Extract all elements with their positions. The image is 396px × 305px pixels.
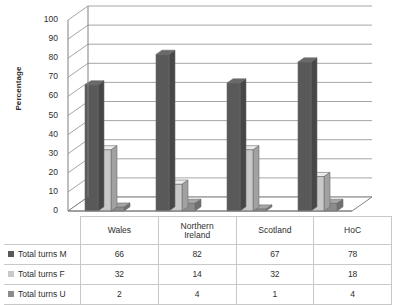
plot-svg <box>0 0 396 216</box>
table-cell: 32 <box>81 265 159 285</box>
data-table: WalesNorthernIrelandScotlandHoCTotal tur… <box>4 216 392 305</box>
table-cell: 78 <box>314 245 392 265</box>
bars <box>85 50 343 211</box>
table-row: Total turns M66826778 <box>4 245 392 265</box>
table-corner-cell <box>4 217 81 245</box>
legend-swatch-icon <box>8 251 14 257</box>
table-column-header: Scotland <box>236 217 314 245</box>
table-cell: 32 <box>236 265 314 285</box>
table-header-row: WalesNorthernIrelandScotlandHoC <box>4 217 392 245</box>
table-column-header: HoC <box>314 217 392 245</box>
legend-label: Total turns F <box>18 270 65 279</box>
table-cell: 14 <box>158 265 236 285</box>
table-cell: 2 <box>81 285 159 305</box>
table-cell: 4 <box>314 285 392 305</box>
table-cell: 82 <box>158 245 236 265</box>
bar <box>156 50 175 211</box>
table-cell: 1 <box>236 285 314 305</box>
table-row: Total turns U2414 <box>4 285 392 305</box>
legend-entry: Total turns F <box>4 265 81 285</box>
legend-label: Total turns U <box>18 290 66 299</box>
table-cell: 66 <box>81 245 159 265</box>
legend-swatch-icon <box>8 291 14 297</box>
table-cell: 18 <box>314 265 392 285</box>
table-column-header: Wales <box>81 217 159 245</box>
plot-area: Percentage 1009080706050403020100 <box>0 0 396 216</box>
table-column-header: NorthernIreland <box>158 217 236 245</box>
legend-entry: Total turns M <box>4 245 81 265</box>
legend-label: Total turns M <box>18 250 67 259</box>
bar <box>227 79 246 211</box>
legend-entry: Total turns U <box>4 285 81 305</box>
bar <box>298 58 317 211</box>
chart-figure: Percentage 1009080706050403020100 WalesN… <box>0 0 396 305</box>
table-cell: 67 <box>236 245 314 265</box>
table-cell: 4 <box>158 285 236 305</box>
table-row: Total turns F32143218 <box>4 265 392 285</box>
legend-swatch-icon <box>8 271 14 277</box>
